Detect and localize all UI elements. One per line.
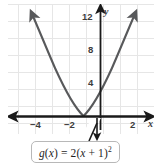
xtick-label-pos2: 2 <box>130 119 135 130</box>
xtick-label-neg4: −4 <box>30 119 41 130</box>
equation-inner-var: x <box>80 146 85 158</box>
axes <box>8 4 154 134</box>
equation-close-paren: ) <box>54 146 58 158</box>
y-axis-label: y <box>104 6 108 17</box>
ytick-label-12: 12 <box>82 11 93 22</box>
xtick-label-neg2: −2 <box>64 119 75 130</box>
equation-equals: = <box>61 146 68 158</box>
equation-callout-box: g(x) = 2(x + 1)2 <box>31 141 120 163</box>
equation-exponent: 2 <box>108 145 112 154</box>
ytick-label-8: 8 <box>88 44 93 55</box>
graph-figure: −4 −2 2 4 8 12 x y g(x) = 2(x + 1)2 <box>0 0 160 168</box>
equation-text: g(x) = 2(x + 1)2 <box>39 145 112 159</box>
ytick-label-4: 4 <box>88 77 93 88</box>
equation-plus: + <box>89 146 96 158</box>
x-axis-label: x <box>148 118 153 129</box>
plot-area: −4 −2 2 4 8 12 x y <box>8 4 154 134</box>
